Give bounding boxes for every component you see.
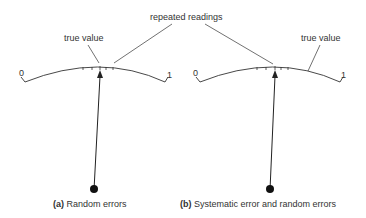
caption-a-text: Random errors <box>67 199 127 209</box>
pointer-arrow-a <box>97 70 103 78</box>
scale-arc-b <box>200 67 340 82</box>
pointer-arrow-b <box>272 70 278 78</box>
caption-a-tag: (a) <box>53 199 64 209</box>
pivot-b <box>266 185 274 193</box>
caption-a: (a) Random errors <box>53 199 127 209</box>
label-true-value-b: true value <box>301 33 341 43</box>
caption-b-tag: (b) <box>180 199 192 209</box>
pivot-a <box>90 185 98 193</box>
scale-min-a: 0 <box>19 68 24 78</box>
diagram-root: repeated readings true value true value … <box>0 0 366 218</box>
scale-min-b: 0 <box>193 68 198 78</box>
scale-max-b: 1 <box>341 70 346 80</box>
caption-b-text: Systematic error and random errors <box>194 199 336 209</box>
leader-lines <box>88 24 320 71</box>
scale-max-a: 1 <box>167 70 172 80</box>
label-repeated-readings: repeated readings <box>150 12 223 22</box>
caption-b: (b) Systematic error and random errors <box>180 199 336 209</box>
scale-arc-a <box>25 67 165 82</box>
label-true-value-a: true value <box>64 33 104 43</box>
